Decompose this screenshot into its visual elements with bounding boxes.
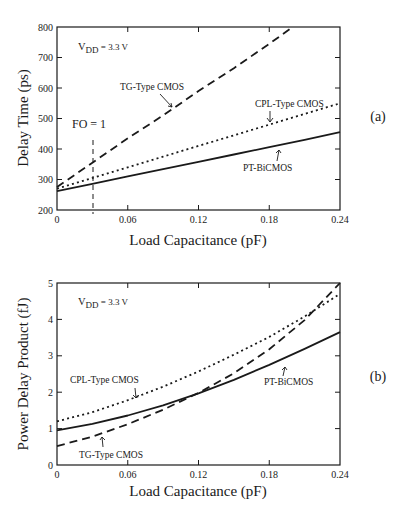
annotation-cpl-a: CPL-Type CMOS — [255, 99, 324, 109]
y-axis-title-a: Delay Time (ps) — [15, 69, 32, 167]
x-tick-label: 0.06 — [119, 469, 137, 480]
x-tick-label: 0.18 — [261, 214, 279, 225]
x-tick-label: 0.24 — [331, 469, 349, 480]
series-line-pt-bicmos — [57, 132, 340, 191]
x-tick-label: 0 — [55, 214, 60, 225]
series-b — [57, 283, 340, 446]
x-tick-label: 0.24 — [331, 214, 349, 225]
annotation-arrow-tg-a — [160, 94, 172, 107]
y-tick-label: 5 — [48, 278, 53, 289]
x-tick-label: 0.12 — [190, 214, 208, 225]
y-tick-label: 4 — [48, 314, 53, 325]
annotation-pt-a: PT-BiCMOS — [243, 163, 292, 173]
x-tick-label: 0.12 — [190, 469, 208, 480]
x-tick-label: 0.18 — [261, 469, 279, 480]
annotation-arrow-tg-b — [100, 437, 105, 447]
y-tick-label: 0 — [48, 460, 53, 471]
panel-label-a: (a) — [370, 109, 386, 125]
y-tick-label: 2 — [48, 387, 53, 398]
x-tick-label: 0 — [55, 469, 60, 480]
vdd-label-b: VDD = 3.3 V — [78, 296, 129, 310]
x-axis-title-a: Load Capacitance (pF) — [129, 232, 266, 249]
x-axis-title-b: Load Capacitance (pF) — [129, 483, 266, 500]
annotation-arrow-cpl-b — [133, 388, 139, 398]
y-tick-label: 300 — [38, 174, 53, 185]
y-tick-label: 600 — [38, 83, 53, 94]
y-tick-label: 3 — [48, 350, 53, 361]
annotation-pt-b: PT-BiCMOS — [264, 377, 313, 387]
figure: 00.060.120.180.24 200300400500600700800 … — [0, 0, 416, 521]
y-tick-label: 800 — [38, 22, 53, 33]
annotation-tg-a: TG-Type CMOS — [120, 82, 184, 92]
series-line-cpl-type-cmos — [57, 294, 340, 421]
plot-frame-b — [57, 283, 340, 465]
y-axis-title-b: Power Delay Product (fJ) — [15, 298, 32, 451]
fanout-marker-label: FO = 1 — [72, 117, 106, 131]
y-tick-label: 500 — [38, 113, 53, 124]
annotation-cpl-b: CPL-Type CMOS — [70, 375, 139, 385]
annotation-arrow-pt-b — [282, 367, 287, 376]
y-tick-label: 200 — [38, 205, 53, 216]
chart-power-delay-product: 00.060.120.180.24 012345 VDD = 3.3 V CPL… — [15, 278, 386, 501]
annotation-tg-b: TG-Type CMOS — [79, 450, 143, 460]
vdd-label-a: VDD = 3.3 V — [78, 41, 129, 55]
chart-delay-time: 00.060.120.180.24 200300400500600700800 … — [15, 22, 386, 250]
y-tick-label: 700 — [38, 52, 53, 63]
y-tick-label: 1 — [48, 423, 53, 434]
annotation-arrow-pt-a — [276, 150, 281, 161]
x-tick-label: 0.06 — [119, 214, 137, 225]
panel-label-b: (b) — [370, 369, 387, 385]
annotation-arrow-cpl-a — [267, 111, 273, 122]
y-tick-label: 400 — [38, 144, 53, 155]
